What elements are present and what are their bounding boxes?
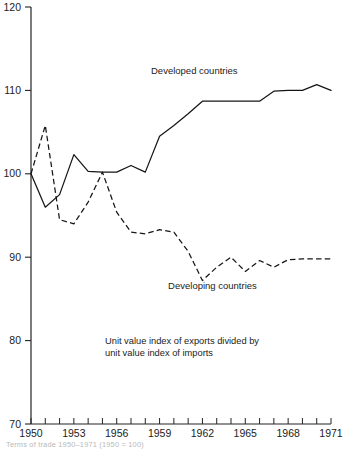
x-axis: 19501953195619591962196519681971 <box>19 418 343 439</box>
x-tick-label: 1965 <box>234 427 258 439</box>
x-tick-label: 1971 <box>319 427 343 439</box>
chart-note-line-1: Unit value index of exports divided by <box>105 336 259 346</box>
chart-note-line-2: unit value index of imports <box>105 348 213 358</box>
x-tick-label: 1962 <box>191 427 215 439</box>
y-tick-label: 110 <box>4 84 21 96</box>
series-label-developing-countries: Developing countries <box>168 280 257 291</box>
series-label-developed-countries: Developed countries <box>151 65 238 76</box>
x-tick-label: 1953 <box>62 427 86 439</box>
y-tick-group <box>25 7 31 424</box>
y-tick-label: 90 <box>9 251 21 263</box>
x-tick-label: 1968 <box>276 427 300 439</box>
x-tick-group <box>31 418 331 424</box>
y-tick-label: 80 <box>9 334 21 346</box>
chart-note: Unit value index of exports divided by u… <box>105 336 259 358</box>
x-tick-label-group: 19501953195619591962196519681971 <box>19 427 343 439</box>
chart-svg: 708090100110120 195019531956195919621965… <box>0 0 343 452</box>
y-tick-label: 100 <box>3 167 21 179</box>
y-tick-label: 120 <box>3 1 21 13</box>
x-tick-label: 1950 <box>19 427 43 439</box>
series-line-developing-countries <box>31 125 331 280</box>
x-tick-label: 1959 <box>148 427 172 439</box>
x-tick-label: 1956 <box>105 427 129 439</box>
y-tick-label-group: 708090100110120 <box>3 1 21 430</box>
series-line-developed-countries <box>31 85 331 208</box>
y-axis: 708090100110120 <box>3 1 31 430</box>
series-annotation-group: Developed countries Developing countries <box>151 65 257 291</box>
terms-of-trade-chart: 708090100110120 195019531956195919621965… <box>0 0 343 452</box>
figure-caption: Terms of trade 1950–1971 (1950 = 100) <box>6 440 144 449</box>
series-group <box>31 85 331 281</box>
